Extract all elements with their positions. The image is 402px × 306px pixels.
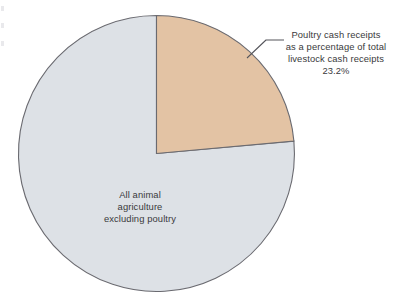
pie-chart-figure: Poultry cash receipts as a percentage of…: [0, 0, 402, 306]
callout-label-poultry: Poultry cash receipts as a percentage of…: [272, 29, 400, 77]
edge-mark: [1, 6, 4, 11]
slice-label-line-2: agriculture: [60, 201, 220, 213]
callout-label-line-2: as a percentage of total: [272, 41, 400, 53]
slice-label-line-1: All animal: [60, 189, 220, 201]
page-edge-artifact: [0, 6, 6, 50]
callout-label-line-3: livestock cash receipts: [272, 53, 400, 65]
callout-label-value: 23.2%: [272, 65, 400, 77]
slice-label-all-animal-agriculture: All animal agriculture excluding poultry: [60, 189, 220, 225]
edge-mark: [1, 41, 4, 46]
slice-label-line-3: excluding poultry: [60, 213, 220, 225]
edge-mark: [1, 23, 4, 28]
callout-label-line-1: Poultry cash receipts: [272, 29, 400, 41]
